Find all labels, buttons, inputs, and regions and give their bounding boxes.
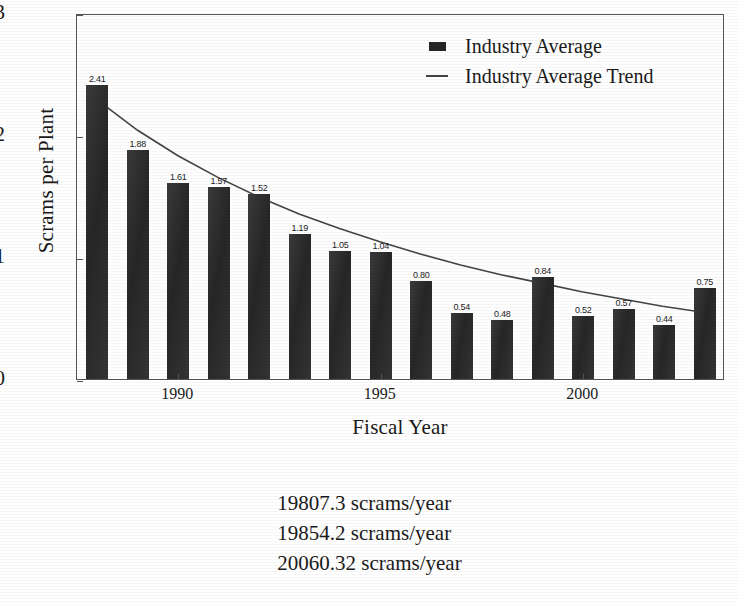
- y-tick-mark: [77, 137, 83, 138]
- table-cell-value: 4.2 scrams/year: [319, 518, 461, 548]
- bar: [127, 150, 149, 379]
- bar: [613, 309, 635, 379]
- bar: [532, 277, 554, 379]
- bar-value-label: 1.19: [277, 223, 323, 233]
- y-tick-label: 1: [0, 246, 5, 267]
- table-cell-year: 1980: [277, 488, 319, 518]
- bar-value-label: 1.05: [317, 240, 363, 250]
- bar: [410, 281, 432, 379]
- bar-value-label: 0.80: [398, 270, 444, 280]
- x-tick-label: 2000: [547, 385, 617, 403]
- table-cell-year: 1985: [277, 518, 319, 548]
- bar-value-label: 0.48: [479, 309, 525, 319]
- x-tick-mark: [583, 374, 584, 379]
- bar-swatch-icon: [417, 42, 457, 51]
- x-tick-label: 1990: [142, 385, 212, 403]
- y-tick-label: 3: [0, 2, 5, 23]
- bar: [694, 288, 716, 380]
- bar: [208, 187, 230, 379]
- bar-value-label: 1.04: [358, 241, 404, 251]
- table-cell-year: 2006: [277, 548, 319, 578]
- bar-value-label: 1.52: [236, 183, 282, 193]
- bar-value-label: 2.41: [74, 74, 120, 84]
- y-tick-mark: [77, 259, 83, 260]
- legend: Industry Average Industry Average Trend: [417, 31, 654, 91]
- table-row: 19854.2 scrams/year: [277, 518, 461, 548]
- bar: [329, 251, 351, 379]
- table-row: 20060.32 scrams/year: [277, 548, 461, 578]
- x-tick-mark: [381, 374, 382, 379]
- bar-value-label: 0.84: [520, 266, 566, 276]
- bar-value-label: 0.44: [641, 314, 687, 324]
- bar: [86, 85, 108, 379]
- bar: [289, 234, 311, 379]
- bar: [248, 194, 270, 379]
- x-tick-label: 1995: [345, 385, 415, 403]
- bar: [451, 313, 473, 379]
- legend-label: Industry Average: [457, 31, 602, 61]
- y-tick-mark: [77, 15, 83, 16]
- summary-table: 19807.3 scrams/year19854.2 scrams/year20…: [0, 488, 739, 578]
- bar-value-label: 0.52: [560, 305, 606, 315]
- bar: [370, 252, 392, 379]
- bar-value-label: 1.57: [196, 176, 242, 186]
- legend-item-industry-average-trend: Industry Average Trend: [417, 61, 654, 91]
- scram-rate-figure: Scrams per Plant 2.411.881.611.571.521.1…: [0, 0, 739, 602]
- table-cell-value: 0.32 scrams/year: [319, 548, 461, 578]
- line-swatch-icon: [417, 75, 457, 77]
- x-axis-title: Fiscal Year: [76, 415, 724, 440]
- legend-label: Industry Average Trend: [457, 61, 654, 91]
- bar: [572, 316, 594, 379]
- x-tick-mark: [178, 374, 179, 379]
- legend-item-industry-average: Industry Average: [417, 31, 654, 61]
- bar-value-label: 0.75: [682, 277, 728, 287]
- plot-frame: 2.411.881.611.571.521.191.051.040.800.54…: [76, 14, 724, 380]
- y-axis-title: Scrams per Plant: [34, 31, 59, 331]
- y-tick-mark: [77, 381, 83, 382]
- bar: [491, 320, 513, 379]
- bar: [653, 325, 675, 379]
- table-cell-value: 7.3 scrams/year: [319, 488, 461, 518]
- y-tick-label: 0: [0, 368, 5, 389]
- table-row: 19807.3 scrams/year: [277, 488, 461, 518]
- bar: [167, 183, 189, 379]
- bar-value-label: 1.61: [155, 172, 201, 182]
- y-tick-label: 2: [0, 124, 5, 145]
- bar-value-label: 0.57: [601, 298, 647, 308]
- bar-value-label: 1.88: [115, 139, 161, 149]
- bar-value-label: 0.54: [439, 302, 485, 312]
- chart-area: Scrams per Plant 2.411.881.611.571.521.1…: [0, 0, 739, 445]
